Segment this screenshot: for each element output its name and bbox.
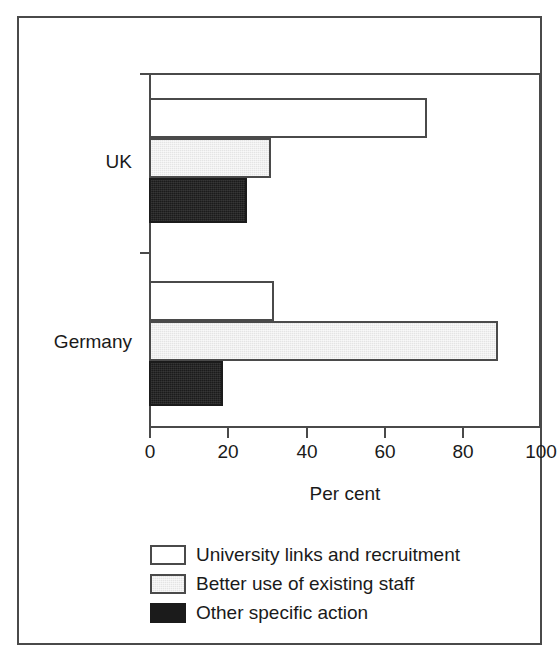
x-axis-tick-0	[149, 428, 151, 438]
x-axis-tick-label-20: 20	[217, 442, 238, 462]
legend-swatch-white-icon	[150, 545, 186, 565]
y-axis-tick-middle	[140, 252, 149, 254]
bar-uk-other-specific-action	[149, 178, 247, 223]
y-axis-tick-top	[140, 73, 149, 75]
figure-frame-border: UK Germany 0 20 40 60 80 100 Per cent Un…	[17, 16, 542, 645]
x-axis-title: Per cent	[149, 484, 541, 504]
category-axis-labels: UK Germany	[19, 18, 132, 438]
legend-item-university-links: University links and recruitment	[150, 540, 510, 569]
category-label-germany: Germany	[54, 332, 132, 351]
chart-legend: University links and recruitment Better …	[150, 540, 510, 627]
x-axis-tick-20	[227, 428, 229, 438]
legend-swatch-grey-icon	[150, 574, 186, 594]
x-axis-tick-100	[540, 428, 542, 438]
category-label-uk: UK	[106, 152, 132, 171]
legend-item-other-specific-action: Other specific action	[150, 598, 510, 627]
legend-label-university-links: University links and recruitment	[196, 545, 460, 565]
bar-uk-better-use-of-staff	[149, 138, 271, 178]
bar-germany-better-use-of-staff	[149, 321, 498, 361]
x-axis-tick-80	[462, 428, 464, 438]
bar-germany-university-links	[149, 281, 274, 321]
x-axis-tick-label-40: 40	[296, 442, 317, 462]
bar-uk-university-links	[149, 98, 427, 138]
x-axis-tick-label-0: 0	[145, 442, 156, 462]
x-axis-tick-60	[384, 428, 386, 438]
x-axis-tick-label-100: 100	[525, 442, 557, 462]
bar-germany-other-specific-action	[149, 361, 223, 406]
legend-item-better-use-of-staff: Better use of existing staff	[150, 569, 510, 598]
x-axis-tick-label-80: 80	[452, 442, 473, 462]
legend-label-other-specific-action: Other specific action	[196, 603, 368, 623]
x-axis-tick-label-60: 60	[374, 442, 395, 462]
x-axis-tick-40	[306, 428, 308, 438]
legend-swatch-black-icon	[150, 603, 186, 623]
legend-label-better-use-of-staff: Better use of existing staff	[196, 574, 414, 594]
